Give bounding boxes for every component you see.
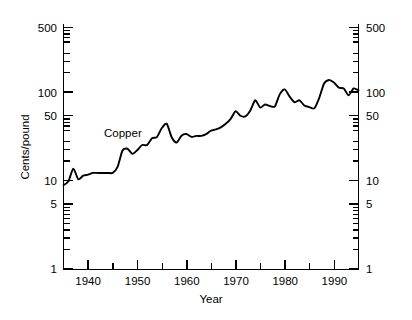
x-tick-label-1960: 1960 <box>174 275 200 287</box>
y-tick-label-5-right: 5 <box>366 198 372 210</box>
y-tick-label-500-right: 500 <box>366 22 385 34</box>
x-axis-tick-labels: 1940 1950 1960 1970 1980 1990 <box>75 275 347 287</box>
y-tick-label-500-left: 500 <box>38 22 57 34</box>
y-axis-right-minor-ticks <box>353 31 359 250</box>
x-tick-label-1980: 1980 <box>272 275 298 287</box>
y-axis-left-major-ticks <box>64 27 74 268</box>
y-tick-label-50-right: 50 <box>366 110 379 122</box>
y-axis-title: Cents/pound <box>19 114 31 179</box>
x-axis-ticks <box>64 260 359 270</box>
y-tick-label-1-left: 1 <box>51 263 57 275</box>
y-tick-label-100-left: 100 <box>38 87 57 99</box>
series-annotation-copper: Copper <box>104 127 142 139</box>
y-axis-right-tick-labels: 500 100 50 10 5 1 <box>366 22 385 275</box>
x-tick-label-1990: 1990 <box>322 275 348 287</box>
y-tick-label-10-right: 10 <box>366 175 379 187</box>
y-tick-label-10-left: 10 <box>44 175 57 187</box>
y-tick-label-50-left: 50 <box>44 110 57 122</box>
x-axis-title: Year <box>199 293 222 305</box>
x-tick-label-1950: 1950 <box>125 275 151 287</box>
x-tick-label-1970: 1970 <box>223 275 249 287</box>
y-axis-left-tick-labels: 500 100 50 10 5 1 <box>38 22 57 275</box>
copper-price-chart: 500 100 50 10 5 1 500 100 50 10 5 1 1940… <box>0 0 412 320</box>
y-axis-left-minor-ticks <box>64 31 70 250</box>
chart-canvas: 500 100 50 10 5 1 500 100 50 10 5 1 1940… <box>0 0 412 320</box>
y-tick-label-100-right: 100 <box>366 87 385 99</box>
x-tick-label-1940: 1940 <box>75 275 101 287</box>
y-axis-right-major-ticks <box>349 27 359 268</box>
y-tick-label-1-right: 1 <box>366 263 372 275</box>
y-tick-label-5-left: 5 <box>51 198 57 210</box>
